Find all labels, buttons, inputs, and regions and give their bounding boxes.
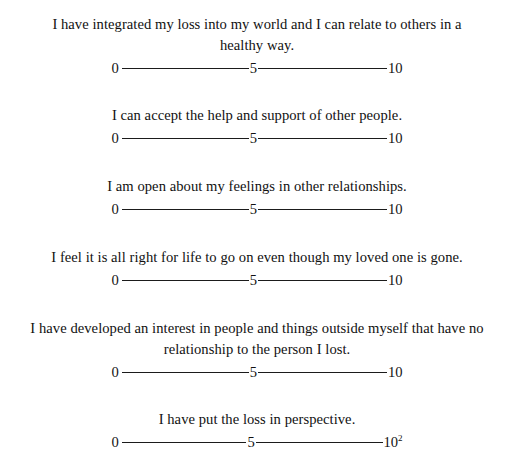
assessment-item: I have developed an interest in people a… (18, 318, 496, 383)
assessment-item: I have integrated my loss into my world … (18, 14, 496, 79)
assessment-item: I have put the loss in perspective. 0 5 … (18, 409, 496, 453)
rating-scale[interactable]: 0 5 10 (111, 57, 403, 79)
scale-label-mid[interactable]: 5 (249, 131, 258, 146)
scale-rule-line (122, 442, 393, 443)
item-statement: I am open about my feelings in other rel… (22, 176, 492, 197)
scale-label-mid[interactable]: 5 (249, 61, 258, 76)
rating-scale[interactable]: 0 5 10 (111, 198, 403, 220)
scale-label-low[interactable]: 0 (111, 273, 119, 288)
item-statement: I feel it is all right for life to go on… (22, 247, 492, 268)
rating-scale[interactable]: 0 5 10 (111, 361, 403, 383)
scale-label-high[interactable]: 10 (387, 273, 403, 288)
rating-scale[interactable]: 0 5 10 (111, 127, 403, 149)
footnote-reference-marker: 2 (398, 433, 403, 443)
assessment-item: I can accept the help and support of oth… (18, 105, 496, 149)
item-spacer (18, 155, 496, 176)
scale-label-low[interactable]: 0 (111, 365, 119, 380)
scale-label-high[interactable]: 10 (387, 61, 403, 76)
scale-label-low[interactable]: 0 (111, 435, 119, 450)
rating-scale[interactable]: 0 5 102 (111, 431, 403, 453)
scale-label-mid[interactable]: 5 (249, 202, 258, 217)
scale-label-mid[interactable]: 5 (249, 365, 258, 380)
assessment-worksheet: I have integrated my loss into my world … (0, 0, 514, 474)
scale-label-high[interactable]: 10 (387, 365, 403, 380)
item-spacer (18, 297, 496, 318)
assessment-item: I am open about my feelings in other rel… (18, 176, 496, 220)
item-statement: I can accept the help and support of oth… (22, 105, 492, 126)
item-spacer (18, 85, 496, 105)
item-statement: I have developed an interest in people a… (20, 318, 494, 360)
item-statement: I have put the loss in perspective. (22, 409, 492, 430)
scale-label-high[interactable]: 10 (387, 131, 403, 146)
scale-label-low[interactable]: 0 (111, 61, 119, 76)
scale-label-high-value: 10 (383, 434, 398, 450)
scale-label-high[interactable]: 10 (387, 202, 403, 217)
scale-label-low[interactable]: 0 (111, 202, 119, 217)
scale-label-low[interactable]: 0 (111, 131, 119, 146)
assessment-item: I feel it is all right for life to go on… (18, 247, 496, 291)
scale-label-mid[interactable]: 5 (249, 273, 258, 288)
item-spacer (18, 226, 496, 247)
item-statement: I have integrated my loss into my world … (35, 14, 479, 56)
rating-scale[interactable]: 0 5 10 (111, 269, 403, 291)
scale-label-mid[interactable]: 5 (246, 435, 255, 450)
item-spacer (18, 389, 496, 409)
scale-label-high[interactable]: 102 (383, 435, 403, 450)
